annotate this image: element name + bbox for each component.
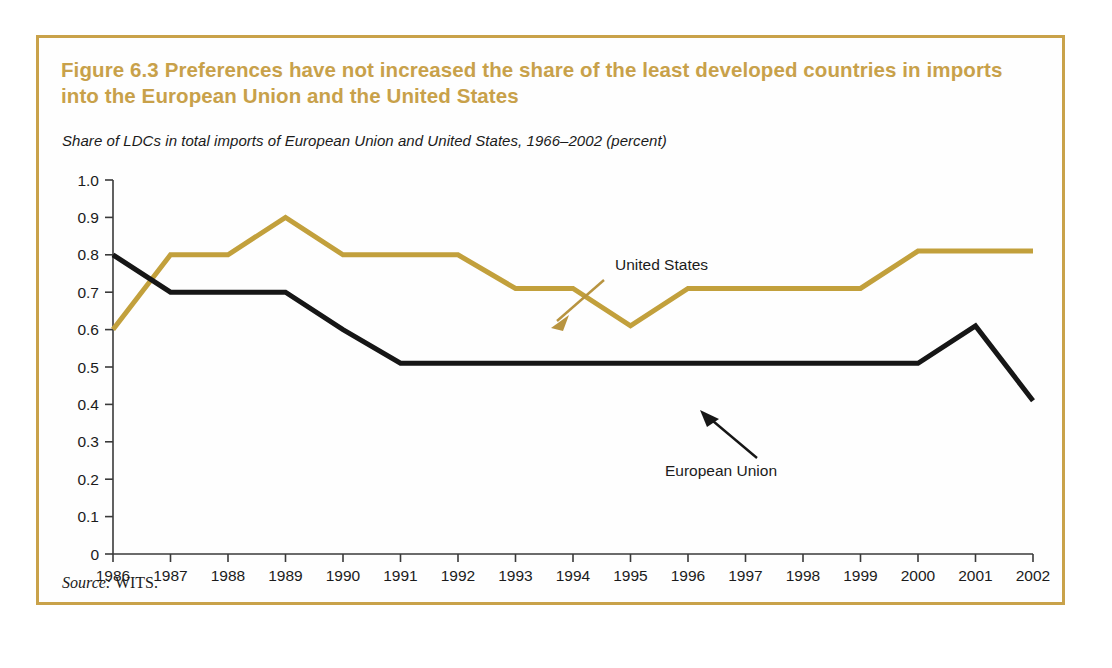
chart-plot-area: 1.00.90.80.70.60.50.40.30.20.10 19861987… (39, 38, 1068, 608)
x-axis-ticks (113, 554, 1033, 562)
y-axis-tick-label: 0.5 (77, 359, 99, 376)
series-line-european-union (113, 255, 1033, 401)
x-axis-tick-label: 1986 (96, 567, 130, 584)
x-axis-tick-labels: 1986198719881989199019911992199319941995… (96, 567, 1050, 584)
x-axis-tick-label: 1991 (383, 567, 417, 584)
x-axis-tick-label: 1988 (211, 567, 245, 584)
x-axis-tick-label: 2000 (901, 567, 936, 584)
annotation-label-us: United States (615, 256, 708, 273)
x-axis-tick-label: 1995 (613, 567, 647, 584)
x-axis-tick-label: 1999 (843, 567, 877, 584)
y-axis-ticks (105, 180, 113, 554)
x-axis-tick-label: 1998 (786, 567, 820, 584)
x-axis-tick-label: 1996 (671, 567, 705, 584)
x-axis-tick-label: 1987 (153, 567, 187, 584)
y-axis-tick-label: 1.0 (77, 172, 99, 189)
y-axis-tick-label: 0.3 (77, 433, 99, 450)
x-axis-tick-label: 1994 (556, 567, 591, 584)
annotation-arrow-line-eu (707, 416, 757, 458)
series-line-united-states (113, 217, 1033, 329)
x-axis-tick-label: 1992 (441, 567, 475, 584)
y-axis-tick-label: 0.6 (77, 321, 99, 338)
x-axis-tick-label: 2001 (958, 567, 992, 584)
y-axis-tick-labels: 1.00.90.80.70.60.50.40.30.20.10 (77, 172, 99, 563)
figure-panel: Figure 6.3 Preferences have not increase… (36, 35, 1065, 605)
y-axis-tick-label: 0.4 (77, 396, 99, 413)
y-axis-tick-label: 0.1 (77, 508, 99, 525)
y-axis-tick-label: 0 (90, 546, 99, 563)
x-axis-tick-label: 1997 (728, 567, 762, 584)
y-axis-tick-label: 0.2 (77, 471, 99, 488)
annotation-label-eu: European Union (665, 462, 777, 479)
line-chart: 1.00.90.80.70.60.50.40.30.20.10 19861987… (39, 38, 1068, 608)
y-axis-tick-label: 0.8 (77, 246, 99, 263)
x-axis-tick-label: 1989 (268, 567, 302, 584)
x-axis-tick-label: 1990 (326, 567, 361, 584)
y-axis-tick-label: 0.9 (77, 209, 99, 226)
y-axis-tick-label: 0.7 (77, 284, 99, 301)
annotation-european-union: European Union (665, 410, 777, 479)
x-axis-tick-label: 1993 (498, 567, 532, 584)
x-axis-tick-label: 2002 (1016, 567, 1050, 584)
